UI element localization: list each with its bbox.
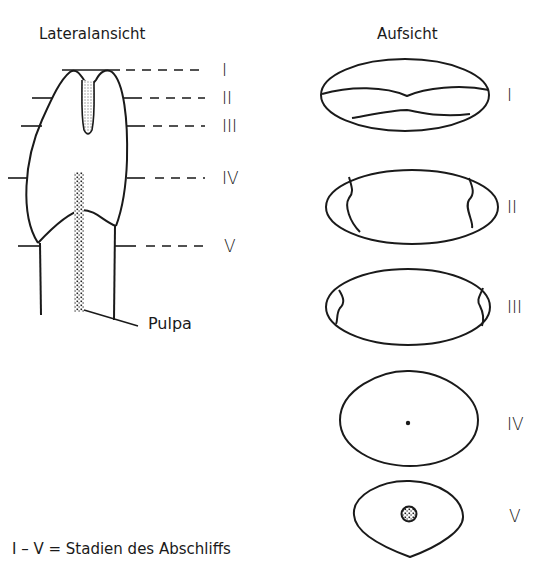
- lateral-level-label-v: V: [224, 238, 236, 255]
- top-view-iv: [340, 371, 478, 466]
- top-view-label-iv: IV: [507, 416, 524, 433]
- tooth-wear-diagram: [0, 0, 538, 580]
- caption: I – V = Stadien des Abschliffs: [12, 542, 231, 557]
- lateral-level-label-iv: IV: [222, 170, 239, 187]
- top-view-label-iii: III: [507, 299, 522, 316]
- title-lateral-view: Lateralansicht: [39, 27, 146, 42]
- top-view-iii: [326, 269, 490, 345]
- dentin-exposure: [82, 80, 94, 134]
- top-view-label-ii: II: [507, 199, 517, 216]
- top-view-ii: [326, 170, 498, 244]
- top-view-label-v: V: [509, 508, 521, 525]
- pulp-label: Pulpa: [148, 316, 192, 332]
- level-lines: [8, 70, 210, 246]
- top-views: [321, 59, 498, 557]
- lateral-level-label-ii: II: [222, 90, 232, 107]
- top-view-label-i: I: [507, 87, 512, 104]
- lateral-level-label-iii: III: [222, 118, 237, 135]
- lateral-view: [26, 70, 138, 326]
- lateral-level-label-i: I: [222, 62, 227, 79]
- pulp-canal: [74, 172, 84, 312]
- title-top-view: Aufsicht: [377, 27, 438, 42]
